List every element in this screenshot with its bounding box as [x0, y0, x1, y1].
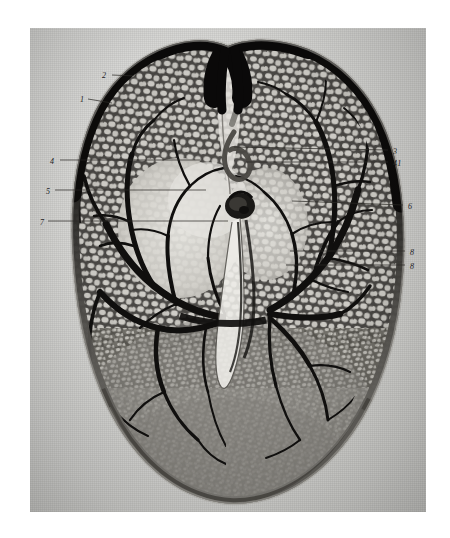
label-1: 1 [80, 96, 84, 104]
specimen-body [30, 28, 426, 512]
label-7: 7 [40, 219, 44, 227]
label-41: 41 [393, 160, 401, 168]
label-8-upper: 8 [410, 249, 414, 257]
specimen-illustration [30, 28, 426, 512]
label-3: 3 [393, 148, 397, 156]
label-2: 2 [102, 72, 106, 80]
photographic-plate [30, 28, 426, 512]
label-5: 5 [46, 188, 50, 196]
figure-root: 21457341688 [0, 0, 450, 538]
label-8-lower: 8 [410, 263, 414, 271]
label-4-sub: 4 [50, 158, 54, 166]
label-6: 6 [408, 203, 412, 211]
